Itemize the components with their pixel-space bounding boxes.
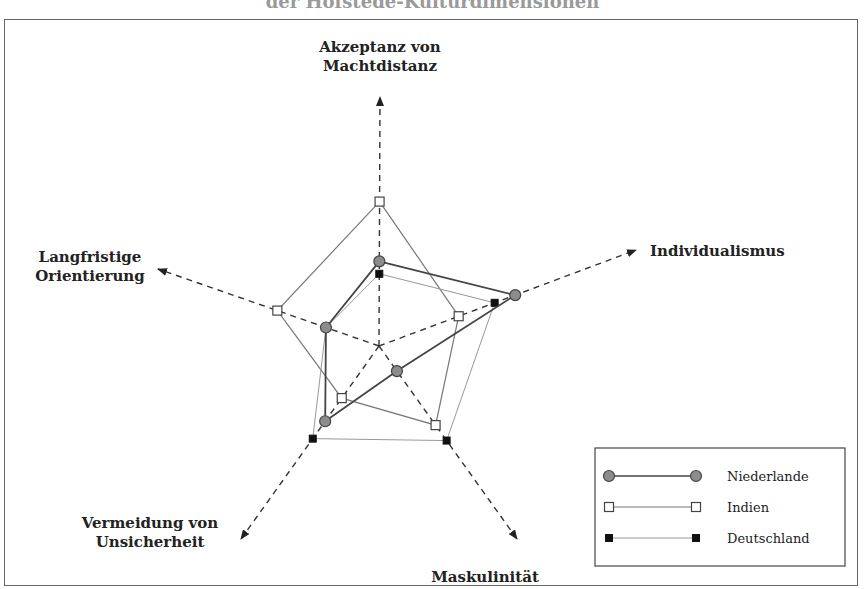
point-mas <box>443 437 450 444</box>
series-indien <box>273 197 463 430</box>
point-mas <box>431 421 440 430</box>
point-uai <box>337 394 346 403</box>
point-idv <box>491 299 498 306</box>
point-lto <box>320 322 331 333</box>
series-deutschland <box>309 270 498 444</box>
point-uai <box>320 416 331 427</box>
point-mas <box>391 366 402 377</box>
axis-label-mas: Maskulinität <box>431 568 539 586</box>
radar-chart: Akzeptanz vonMachtdistanzIndividualismus… <box>0 0 865 589</box>
legend: NiederlandeIndienDeutschland <box>595 448 845 566</box>
legend-marker-right <box>693 535 700 542</box>
legend-marker-right <box>692 503 701 512</box>
point-pdi <box>374 256 385 267</box>
axis-label-line: Vermeidung von <box>81 514 219 532</box>
axis-label-line: Maskulinität <box>431 568 539 586</box>
axis-label-line: Individualismus <box>650 242 785 260</box>
point-pdi <box>375 197 384 206</box>
axis-pdi <box>379 97 380 346</box>
legend-marker-right <box>691 471 702 482</box>
legend-marker-left <box>606 535 613 542</box>
series-niederlande <box>320 256 521 427</box>
axis-label-line: Machtdistanz <box>323 57 437 75</box>
axis-label-lto: LangfristigeOrientierung <box>35 248 145 285</box>
legend-label: Niederlande <box>727 469 809 484</box>
legend-marker-left <box>604 471 615 482</box>
axis-label-uai: Vermeidung vonUnsicherheit <box>81 514 219 551</box>
axis-idv <box>379 250 636 346</box>
axis-label-line: Orientierung <box>35 267 145 285</box>
axis-label-pdi: Akzeptanz vonMachtdistanz <box>318 38 441 75</box>
series-line <box>325 261 515 421</box>
axis-label-idv: Individualismus <box>650 242 785 260</box>
point-lto <box>273 306 282 315</box>
point-uai <box>309 435 316 442</box>
axis-label-line: Unsicherheit <box>96 533 205 551</box>
point-pdi <box>376 270 383 277</box>
legend-label: Indien <box>727 500 770 515</box>
axis-label-line: Langfristige <box>39 248 142 266</box>
legend-marker-left <box>605 503 614 512</box>
point-idv <box>510 290 521 301</box>
point-idv <box>454 312 463 321</box>
legend-label: Deutschland <box>727 531 810 546</box>
axis-label-line: Akzeptanz von <box>318 38 441 56</box>
